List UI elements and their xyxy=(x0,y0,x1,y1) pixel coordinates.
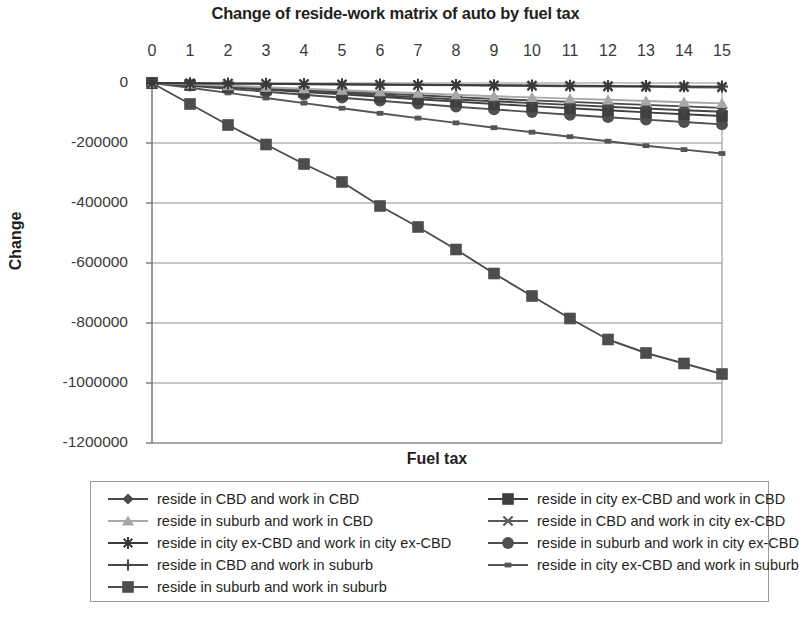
marker-square xyxy=(678,358,690,370)
chart-legend: reside in CBD and work in CBDreside in c… xyxy=(90,481,769,602)
legend-swatch-small-square xyxy=(485,557,531,573)
marker-small-square xyxy=(719,151,726,156)
legend-label: reside in city ex-CBD and work in suburb xyxy=(537,557,799,573)
legend-label: reside in suburb and work in city ex-CBD xyxy=(537,535,799,551)
marker-square xyxy=(716,368,728,380)
legend-entry: reside in city ex-CBD and work in CBD xyxy=(479,491,768,507)
marker-square xyxy=(336,176,348,188)
x-axis-title: Fuel tax xyxy=(152,450,722,468)
legend-row: reside in suburb and work in suburb xyxy=(91,576,768,598)
legend-label: reside in city ex-CBD and work in CBD xyxy=(537,491,785,507)
legend-entry: reside in city ex-CBD and work in city e… xyxy=(91,535,479,551)
legend-entry: reside in suburb and work in city ex-CBD xyxy=(479,535,768,551)
marker-small-square xyxy=(505,563,512,568)
legend-label: reside in CBD and work in city ex-CBD xyxy=(537,513,785,529)
marker-small-square xyxy=(605,139,612,144)
legend-swatch-triangle xyxy=(105,513,151,529)
legend-entry: reside in CBD and work in city ex-CBD xyxy=(479,513,768,529)
marker-small-square xyxy=(681,147,688,152)
marker-square xyxy=(412,221,424,233)
marker-small-square xyxy=(567,134,574,139)
legend-swatch-plus xyxy=(105,557,151,573)
legend-swatch-square xyxy=(105,579,151,595)
legend-label: reside in suburb and work in CBD xyxy=(157,513,373,529)
marker-square xyxy=(602,334,614,346)
legend-row: reside in city ex-CBD and work in city e… xyxy=(91,532,768,554)
marker-small-square xyxy=(491,125,498,130)
legend-label: reside in city ex-CBD and work in city e… xyxy=(157,535,451,551)
marker-square xyxy=(502,493,514,505)
legend-label: reside in suburb and work in suburb xyxy=(157,579,387,595)
marker-square xyxy=(260,139,272,151)
series-8 xyxy=(146,77,728,380)
legend-entry: reside in city ex-CBD and work in suburb xyxy=(479,557,768,573)
marker-small-square xyxy=(415,116,422,121)
legend-swatch-square xyxy=(485,491,531,507)
marker-square xyxy=(374,200,386,212)
marker-square xyxy=(526,290,538,302)
legend-row: reside in suburb and work in CBDreside i… xyxy=(91,510,768,532)
marker-small-square xyxy=(339,106,346,111)
marker-square xyxy=(450,244,462,256)
marker-square xyxy=(222,119,234,131)
legend-entry: reside in suburb and work in CBD xyxy=(91,513,479,529)
marker-square xyxy=(488,268,500,280)
legend-swatch-cross-x xyxy=(485,513,531,529)
marker-square xyxy=(184,98,196,110)
marker-diamond xyxy=(122,493,133,504)
legend-swatch-diamond xyxy=(105,491,151,507)
legend-row: reside in CBD and work in CBDreside in c… xyxy=(91,488,768,510)
legend-row: reside in CBD and work in suburbreside i… xyxy=(91,554,768,576)
marker-square xyxy=(122,581,134,593)
legend-label: reside in CBD and work in suburb xyxy=(157,557,373,573)
marker-small-square xyxy=(643,143,650,148)
marker-square xyxy=(564,313,576,325)
marker-small-square xyxy=(377,111,384,116)
legend-label: reside in CBD and work in CBD xyxy=(157,491,359,507)
marker-small-square xyxy=(301,101,308,106)
marker-small-square xyxy=(453,121,460,126)
legend-entry: reside in CBD and work in suburb xyxy=(91,557,479,573)
marker-small-square xyxy=(529,130,536,135)
series-line xyxy=(152,83,722,374)
marker-circle xyxy=(502,537,514,549)
legend-entry: reside in suburb and work in suburb xyxy=(91,579,480,595)
legend-entry: reside in CBD and work in CBD xyxy=(91,491,479,507)
legend-swatch-asterisk xyxy=(105,535,151,551)
legend-swatch-circle xyxy=(485,535,531,551)
marker-square xyxy=(640,347,652,359)
marker-square xyxy=(298,158,310,170)
